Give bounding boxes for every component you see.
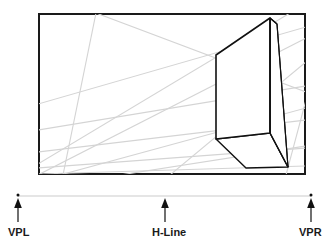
vpl-point-dot[interactable] — [17, 194, 20, 197]
vpl-label: VPL — [8, 226, 29, 239]
hline-pointer-arrow[interactable] — [161, 198, 169, 222]
vpr-label: VPR — [299, 226, 322, 239]
vpr-point-dot[interactable] — [310, 194, 313, 197]
diagram-canvas — [0, 0, 330, 251]
vpr-pointer-arrow[interactable] — [307, 198, 315, 222]
h-line-label: H-Line — [152, 226, 186, 239]
perspective-diagram: VPL H-Line VPR — [0, 0, 330, 251]
pointer-arrow-group — [14, 198, 315, 222]
vpl-pointer-arrow[interactable] — [14, 198, 22, 222]
